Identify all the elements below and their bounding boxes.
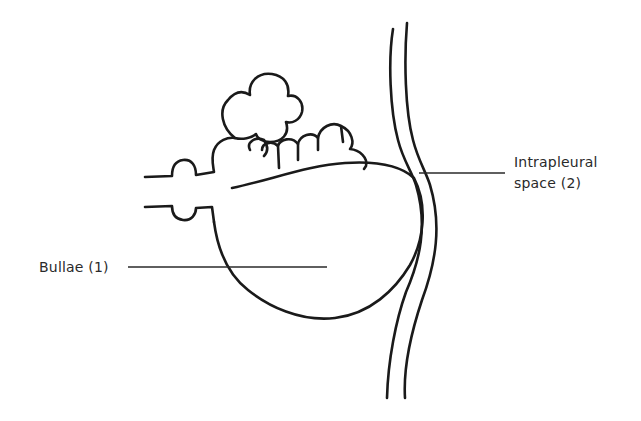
intrapleural-label-line-1: Intrapleural xyxy=(514,152,598,173)
alveolar-cluster-small xyxy=(249,139,267,156)
alveolar-cluster-large xyxy=(222,74,302,142)
visceral-pleura-line xyxy=(387,29,422,398)
airway-upper xyxy=(145,138,235,177)
bullae-label: Bullae (1) xyxy=(39,257,109,278)
bulla-outline xyxy=(214,163,423,319)
airway-lower xyxy=(145,206,214,222)
intrapleural-space-label: Intrapleural space (2) xyxy=(514,152,598,194)
bullae-label-text: Bullae (1) xyxy=(39,259,109,275)
intrapleural-label-line-2: space (2) xyxy=(514,173,598,194)
bulla-diagram xyxy=(0,0,641,421)
